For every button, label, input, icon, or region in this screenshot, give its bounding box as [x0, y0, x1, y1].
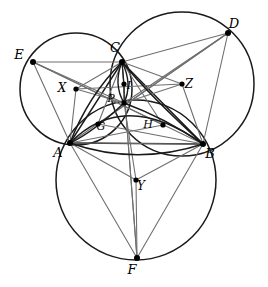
- label-G: G: [97, 120, 106, 133]
- geometry-canvas: ABCDEFXYZGHIP: [0, 0, 268, 287]
- point-C: [119, 59, 125, 65]
- label-E: E: [13, 47, 24, 62]
- point-I: [121, 81, 126, 86]
- label-H: H: [142, 118, 153, 131]
- point-E: [30, 59, 36, 65]
- point-F: [134, 255, 140, 261]
- label-Y: Y: [137, 179, 146, 193]
- label-D: D: [228, 16, 240, 31]
- label-F: F: [126, 262, 137, 277]
- geometry-figure: ABCDEFXYZGHIP: [0, 0, 268, 287]
- point-P: [121, 100, 126, 105]
- label-I: I: [126, 79, 132, 92]
- point-X: [73, 86, 78, 91]
- label-P: P: [106, 92, 115, 105]
- label-B: B: [204, 146, 215, 161]
- label-X: X: [57, 81, 67, 95]
- point-Z: [179, 81, 184, 86]
- label-A: A: [52, 145, 62, 160]
- point-A: [67, 140, 73, 146]
- label-Z: Z: [184, 77, 194, 91]
- label-C: C: [110, 40, 120, 55]
- point-H: [160, 122, 165, 127]
